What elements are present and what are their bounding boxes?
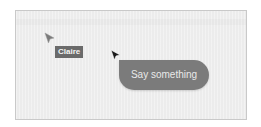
collaborator-cursor-icon xyxy=(44,32,56,46)
canvas-top-band xyxy=(16,19,246,25)
cursor-chat-input[interactable]: Say something xyxy=(119,60,209,90)
cursor-chat-placeholder: Say something xyxy=(131,69,197,80)
collaborator-name-tag: Claire xyxy=(55,46,83,58)
